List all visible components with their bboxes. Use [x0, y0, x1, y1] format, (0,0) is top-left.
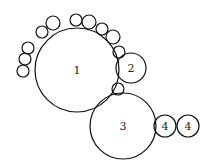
- circle-label: 4: [185, 120, 192, 133]
- small-circle: [82, 15, 96, 29]
- circle-c1: 1: [35, 28, 119, 112]
- small-circle: [17, 65, 29, 77]
- small-circles-group: [17, 14, 125, 95]
- circle-c4a: 4: [154, 115, 176, 137]
- small-circle: [70, 14, 82, 26]
- small-circle: [46, 16, 60, 30]
- small-circle: [19, 53, 31, 65]
- circle-label: 1: [74, 64, 81, 77]
- circle-c2: 2: [116, 53, 146, 83]
- circle-label: 4: [162, 120, 169, 133]
- circle-label: 2: [128, 62, 135, 75]
- circle-c4b: 4: [177, 115, 199, 137]
- circle-packing-diagram: 12344: [0, 0, 211, 164]
- labeled-circles-group: 12344: [35, 28, 199, 159]
- small-circle: [36, 26, 48, 38]
- circle-label: 3: [120, 120, 127, 133]
- circle-c3: 3: [90, 93, 156, 159]
- small-circle: [22, 42, 34, 54]
